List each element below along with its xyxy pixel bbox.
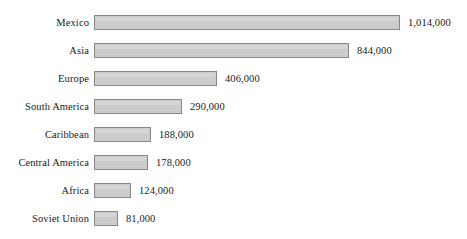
value-label: 290,000	[190, 99, 225, 115]
value-label: 844,000	[357, 43, 392, 59]
bar-track	[94, 71, 217, 87]
value-label: 81,000	[126, 211, 155, 227]
bar	[94, 99, 182, 114]
value-label: 124,000	[139, 183, 174, 199]
bar-highlight	[96, 157, 146, 161]
bar-row: Europe406,000	[0, 71, 467, 87]
bar	[94, 71, 217, 86]
bar-row: South America290,000	[0, 99, 467, 115]
bar-track	[94, 211, 118, 227]
bar-highlight	[96, 45, 347, 49]
bar-row: Mexico1,014,000	[0, 15, 467, 31]
bar-chart: Mexico1,014,000Asia844,000Europe406,000S…	[0, 0, 467, 239]
category-label: Europe	[0, 71, 89, 87]
bar-highlight	[96, 17, 398, 21]
category-label: Africa	[0, 183, 89, 199]
value-label: 178,000	[156, 155, 191, 171]
bar-track	[94, 43, 349, 59]
value-label: 406,000	[225, 71, 260, 87]
category-label: Soviet Union	[0, 211, 89, 227]
bar-row: Soviet Union81,000	[0, 211, 467, 227]
bar-highlight	[96, 73, 215, 77]
bar-highlight	[96, 213, 116, 217]
bar	[94, 43, 349, 58]
bar-track	[94, 155, 148, 171]
bar	[94, 15, 400, 30]
bar-track	[94, 183, 131, 199]
bar-highlight	[96, 101, 180, 105]
bar	[94, 127, 151, 142]
bar-row: Central America178,000	[0, 155, 467, 171]
category-label: Central America	[0, 155, 89, 171]
bar	[94, 155, 148, 170]
category-label: Asia	[0, 43, 89, 59]
bar-highlight	[96, 185, 129, 189]
value-label: 1,014,000	[408, 15, 451, 31]
category-label: Mexico	[0, 15, 89, 31]
bar-track	[94, 99, 182, 115]
bar	[94, 211, 118, 226]
bar-track	[94, 127, 151, 143]
bar	[94, 183, 131, 198]
category-label: Caribbean	[0, 127, 89, 143]
bar-row: Africa124,000	[0, 183, 467, 199]
bar-highlight	[96, 129, 149, 133]
bar-track	[94, 15, 400, 31]
category-label: South America	[0, 99, 89, 115]
bar-row: Asia844,000	[0, 43, 467, 59]
value-label: 188,000	[159, 127, 194, 143]
bar-row: Caribbean188,000	[0, 127, 467, 143]
